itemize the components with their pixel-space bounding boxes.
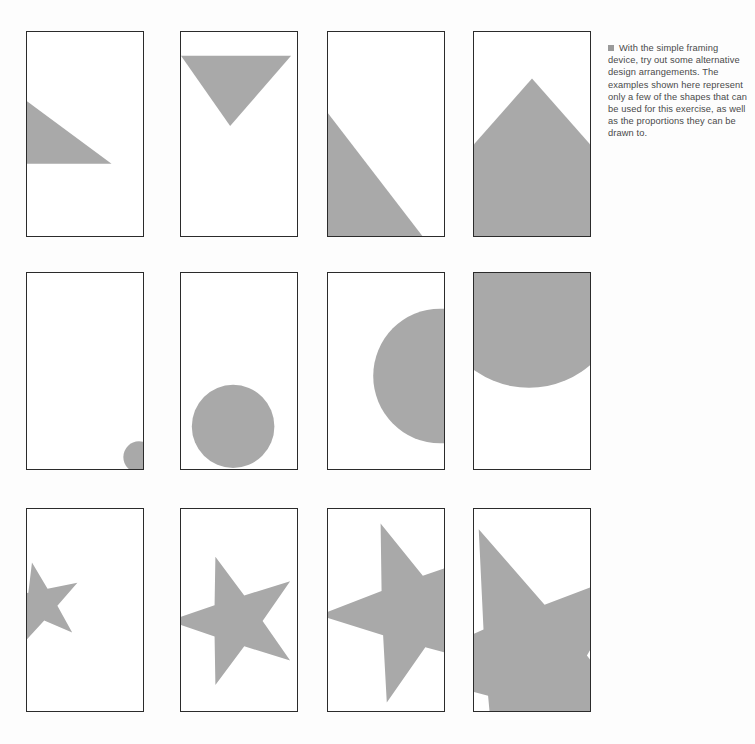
circle-shape-canvas — [27, 273, 143, 469]
triangle-icon — [474, 79, 590, 236]
triangle-icon — [181, 56, 291, 126]
panel-clip-area — [27, 273, 143, 469]
panel-clip-area — [474, 32, 590, 236]
star-shape-canvas — [474, 509, 590, 711]
caption-block: With the simple framing device, try out … — [608, 42, 750, 140]
star-icon — [474, 529, 590, 711]
star-shape-canvas — [181, 509, 297, 711]
star-icon — [328, 524, 444, 703]
star-shape-canvas — [27, 509, 143, 711]
circle-shape-canvas — [328, 273, 444, 469]
triangle-icon — [27, 101, 112, 163]
caption-text: With the simple framing device, try out … — [608, 43, 747, 138]
circle-icon — [123, 441, 143, 469]
shape-panel-2-2 — [180, 272, 298, 470]
panel-clip-area — [181, 32, 297, 236]
shape-panel-2-4 — [473, 272, 591, 470]
shape-panel-1-3 — [327, 31, 445, 237]
panel-clip-area — [27, 509, 143, 711]
panel-clip-area — [181, 273, 297, 469]
circle-shape-canvas — [474, 273, 590, 469]
triangle-icon — [328, 113, 422, 236]
panel-clip-area — [474, 509, 590, 711]
shape-panel-3-1 — [26, 508, 144, 712]
star-shape-canvas — [328, 509, 444, 711]
panel-clip-area — [27, 32, 143, 236]
star-icon — [27, 562, 77, 643]
circle-shape-canvas — [181, 273, 297, 469]
panel-clip-area — [328, 509, 444, 711]
panel-clip-area — [328, 32, 444, 236]
panel-clip-area — [474, 273, 590, 469]
shape-panel-3-3 — [327, 508, 445, 712]
panel-clip-area — [328, 273, 444, 469]
triangle-shape-canvas — [27, 32, 143, 236]
page-root: With the simple framing device, try out … — [0, 0, 755, 744]
triangle-shape-canvas — [181, 32, 297, 236]
circle-icon — [373, 309, 444, 444]
shape-panel-1-1 — [26, 31, 144, 237]
star-icon — [181, 557, 290, 685]
shape-panel-1-2 — [180, 31, 298, 237]
square-bullet-icon — [608, 45, 614, 51]
triangle-shape-canvas — [328, 32, 444, 236]
shape-panel-1-4 — [473, 31, 591, 237]
shape-panel-3-2 — [180, 508, 298, 712]
shape-panel-3-4 — [473, 508, 591, 712]
shape-panel-2-1 — [26, 272, 144, 470]
panel-clip-area — [181, 509, 297, 711]
circle-icon — [192, 385, 275, 468]
circle-icon — [474, 273, 590, 388]
shape-panel-2-3 — [327, 272, 445, 470]
triangle-shape-canvas — [474, 32, 590, 236]
